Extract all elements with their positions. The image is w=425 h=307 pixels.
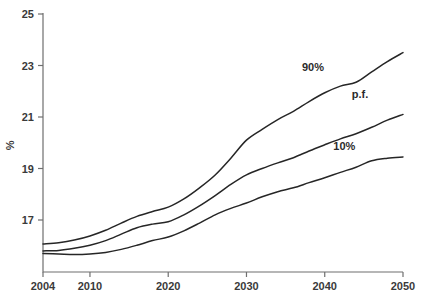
series-label-10-: 10% bbox=[333, 140, 355, 152]
chart-series-annotations: 90%p.f.10% bbox=[302, 61, 368, 153]
chart-container: 1719212325200420102020203020402050 90%p.… bbox=[0, 0, 425, 307]
y-axis-title-text: % bbox=[4, 140, 16, 150]
y-tick-label: 25 bbox=[22, 8, 34, 20]
series-label-p-f-: p.f. bbox=[352, 88, 369, 100]
line-chart: 1719212325200420102020203020402050 90%p.… bbox=[0, 0, 425, 307]
x-tick-label: 2010 bbox=[78, 280, 102, 292]
chart-tick-labels: 1719212325200420102020203020402050 bbox=[22, 8, 415, 292]
x-tick-label: 2050 bbox=[391, 280, 415, 292]
x-tick-label: 2004 bbox=[31, 280, 56, 292]
x-tick-label: 2020 bbox=[156, 280, 180, 292]
series-label-90-: 90% bbox=[302, 61, 324, 73]
series-line-10- bbox=[43, 157, 403, 255]
y-tick-label: 21 bbox=[22, 111, 34, 123]
x-tick-label: 2030 bbox=[234, 280, 258, 292]
y-tick-label: 17 bbox=[22, 214, 34, 226]
y-tick-label: 19 bbox=[22, 163, 34, 175]
series-line-p-f- bbox=[43, 114, 403, 250]
y-axis-title: % bbox=[4, 140, 16, 150]
chart-series-lines bbox=[43, 53, 403, 255]
x-tick-label: 2040 bbox=[312, 280, 336, 292]
y-tick-label: 23 bbox=[22, 60, 34, 72]
